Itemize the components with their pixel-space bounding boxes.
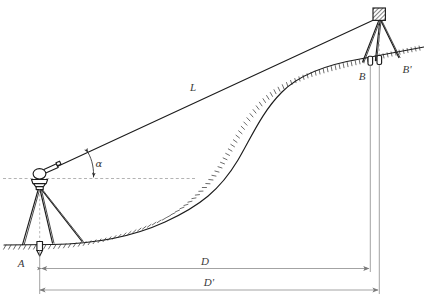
vertical-angle-arc (88, 153, 94, 178)
ground-hatching (4, 46, 420, 249)
survey-target (373, 8, 385, 20)
dimension-d-prime-label: D' (203, 276, 215, 288)
tripod-legs-a (23, 190, 84, 247)
station-b-prime-label: B' (402, 63, 412, 75)
theodolite-instrument (32, 161, 62, 189)
station-a-label: A (17, 257, 25, 269)
marker-b-prime (377, 56, 382, 65)
diagram-canvas: D D' L α A B B' (0, 0, 424, 303)
dimension-d-prime: D' (39, 276, 378, 292)
vertical-angle-label: α (96, 158, 103, 169)
dimension-d: D (41, 255, 369, 271)
station-b-label: B (359, 70, 366, 82)
dimension-d-label: D (200, 255, 209, 267)
marker-b (368, 56, 373, 65)
survey-diagram: D D' L α A B B' (0, 0, 424, 303)
sight-line-L (40, 18, 379, 175)
slope-distance-label: L (189, 81, 196, 93)
